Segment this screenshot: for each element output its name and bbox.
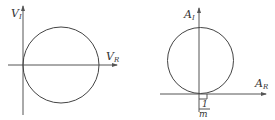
- left-x-axis-label: VR: [106, 50, 120, 64]
- diagram-canvas: VI VR AI AR 1 m: [0, 0, 275, 120]
- left-y-axis-label: VI: [11, 7, 22, 21]
- right-y-axis-label: AI: [183, 8, 195, 22]
- left-diagram: VI VR: [8, 6, 120, 115]
- tick-denominator: m: [199, 109, 208, 119]
- right-x-axis-label: AR: [254, 77, 269, 91]
- right-diagram: AI AR 1 m: [160, 8, 269, 119]
- tick-numerator: 1: [202, 99, 208, 109]
- right-circle: [168, 28, 234, 94]
